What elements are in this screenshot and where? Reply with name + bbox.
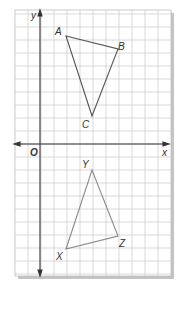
origin-label: O [30,147,38,158]
x-axis-label: x [161,147,168,158]
y-axis-label: y [30,10,37,21]
vertex-label-a: A [54,26,62,37]
coordinate-grid-figure: y x O A B C Y Z X [0,0,179,313]
vertex-label-c: C [82,119,90,130]
grid-svg: y x O A B C Y Z X [0,0,179,313]
vertex-label-b: B [118,41,125,52]
vertex-label-z: Z [118,238,126,249]
vertex-label-x: X [55,251,63,262]
